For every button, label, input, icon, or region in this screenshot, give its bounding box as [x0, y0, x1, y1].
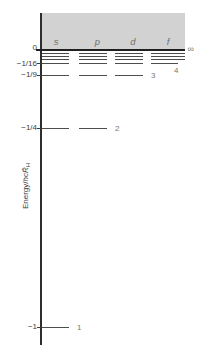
- continuum-infinity-label: ∞: [188, 45, 194, 54]
- y-axis-tick: [37, 75, 41, 76]
- level-line-n-d: [115, 56, 143, 57]
- level-line-n-s: [42, 53, 70, 54]
- level-line-3-p: [79, 75, 107, 76]
- y-tick-label: −1: [0, 322, 37, 331]
- shell-label-1: 1: [77, 323, 81, 332]
- orbital-label-f: f: [167, 36, 170, 47]
- level-line-3-d: [115, 75, 143, 76]
- level-line-4-p: [79, 63, 107, 64]
- level-line-n-p: [79, 53, 107, 54]
- level-line-n-f: [151, 53, 185, 54]
- level-line-4-d: [115, 63, 143, 64]
- y-axis-title: Energy/hcR̃H: [20, 152, 32, 220]
- level-line-n-f: [151, 56, 185, 57]
- level-line-3-s: [42, 75, 70, 76]
- level-line-n-p: [79, 56, 107, 57]
- continuum-band: [41, 13, 185, 49]
- level-line-2-p: [79, 128, 107, 129]
- y-axis-title-prefix: Energy/: [21, 182, 30, 210]
- level-line-4-f: [151, 63, 178, 64]
- y-axis-title-symbols: hcR̃: [21, 167, 30, 181]
- orbital-label-d: d: [130, 36, 135, 47]
- y-axis-tick: [37, 63, 41, 64]
- orbital-label-p: p: [95, 36, 100, 47]
- level-line-2-s: [42, 128, 70, 129]
- y-axis-tick: [37, 128, 41, 129]
- shell-label-2: 2: [115, 124, 119, 133]
- level-line-n-p: [79, 59, 107, 60]
- shell-label-4: 4: [174, 66, 178, 75]
- level-line-4-s: [42, 63, 70, 64]
- level-line-n-s: [42, 56, 70, 57]
- level-line-n-d: [115, 53, 143, 54]
- y-tick-label: 0: [0, 43, 37, 52]
- shell-label-3: 3: [151, 71, 155, 80]
- y-tick-label: −1/16: [0, 59, 37, 68]
- y-axis-tick: [37, 327, 41, 328]
- y-tick-label: −1/4: [0, 123, 37, 132]
- level-line-n-f: [151, 59, 185, 60]
- level-line-continuum: [36, 49, 185, 51]
- y-tick-label: −1/9: [0, 70, 37, 79]
- level-line-1-s: [42, 327, 70, 328]
- level-line-n-s: [42, 59, 70, 60]
- orbital-label-s: s: [54, 36, 59, 47]
- energy-level-diagram: Energy/hcR̃H s p d f 0∞−1/164−1/93−1/42−…: [0, 0, 198, 356]
- y-axis-title-subscript: H: [25, 163, 31, 167]
- level-line-n-d: [115, 59, 143, 60]
